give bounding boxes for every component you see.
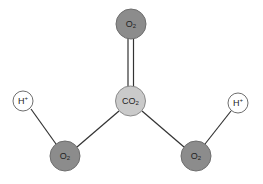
atom-h-left: H+: [13, 91, 33, 111]
bond-o-bottom-left-h-left: [31, 109, 56, 144]
molecule-diagram: O2 CO2 H+ H+ O2 O2: [0, 0, 263, 184]
atom-h-right: H+: [228, 93, 248, 113]
atom-o-top: O2: [116, 9, 146, 39]
atom-o-bottom-left: O2: [50, 141, 80, 171]
bond-o-bottom-right-h-right: [205, 111, 231, 144]
atom-co2-center: CO2: [116, 86, 146, 116]
atom-o-bottom-right: O2: [181, 141, 211, 171]
bond-co2-o-bottom-right: [142, 111, 184, 147]
bond-co2-o-bottom-left: [77, 111, 119, 147]
